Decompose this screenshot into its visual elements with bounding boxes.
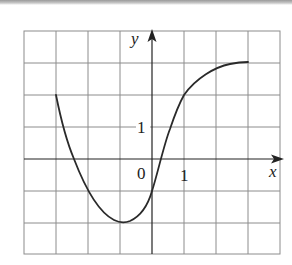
origin-label: 0 [137, 165, 146, 182]
x-tick-label-1: 1 [180, 167, 189, 184]
graph-canvas [0, 0, 292, 265]
axes [24, 36, 278, 254]
x-axis-label: x [269, 163, 277, 180]
y-axis-label: y [131, 30, 139, 47]
y-tick-label-1: 1 [137, 119, 146, 136]
